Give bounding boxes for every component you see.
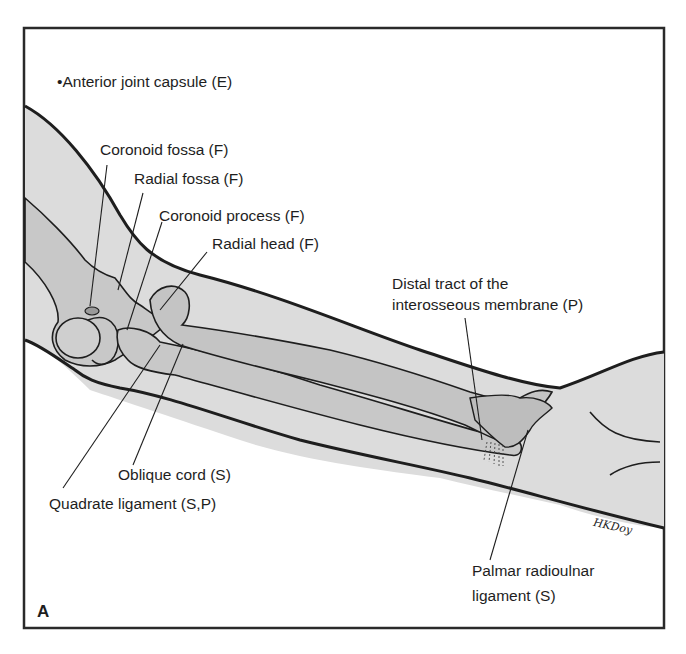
capitulum: [56, 318, 100, 358]
label-distal-tract-1: Distal tract of the: [392, 275, 508, 293]
label-distal-tract-2: interosseous membrane (P): [392, 296, 583, 314]
label-quadrate-ligament: Quadrate ligament (S,P): [49, 495, 216, 513]
label-coronoid-fossa: Coronoid fossa (F): [100, 141, 228, 159]
label-palmar-radioulnar-1: Palmar radioulnar: [472, 562, 594, 580]
coronoid-fossa-marker: [85, 307, 99, 315]
anatomy-figure: •Anterior joint capsule (E) Coronoid fos…: [0, 0, 686, 654]
forearm-illustration: [0, 0, 686, 654]
label-anterior-joint-capsule: •Anterior joint capsule (E): [57, 73, 232, 91]
label-oblique-cord: Oblique cord (S): [118, 466, 231, 484]
label-radial-fossa: Radial fossa (F): [134, 170, 243, 188]
panel-letter: A: [37, 602, 49, 622]
label-coronoid-process: Coronoid process (F): [159, 207, 305, 225]
label-palmar-radioulnar-2: ligament (S): [472, 587, 556, 605]
label-radial-head: Radial head (F): [212, 235, 319, 253]
